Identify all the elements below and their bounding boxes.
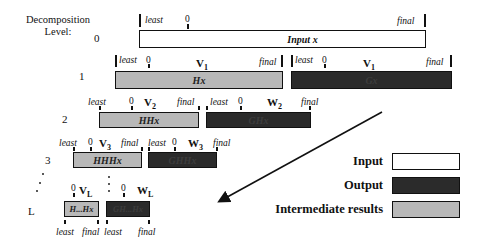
legend-intermediate-swatch — [392, 201, 460, 218]
legend-output-swatch — [392, 177, 460, 194]
legend-input-swatch — [392, 153, 460, 170]
legend-input-label: Input — [353, 154, 383, 169]
legend-output-label: Output — [344, 178, 383, 193]
legend-intermediate-label: Intermediate results — [275, 202, 383, 217]
